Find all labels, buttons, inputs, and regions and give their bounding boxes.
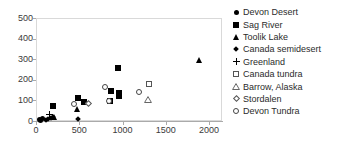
- legend-item[interactable]: Devon Desert: [231, 6, 339, 18]
- legend-item[interactable]: Greenland: [231, 56, 339, 68]
- plot-area: [36, 18, 222, 121]
- legend-item[interactable]: Devon Tundra: [231, 105, 339, 117]
- y-axis-tick: [33, 18, 36, 19]
- legend-marker-icon: [231, 44, 241, 54]
- legend-item[interactable]: Stordalen: [231, 93, 339, 105]
- y-axis-tick: [33, 100, 36, 101]
- x-axis-tick: [209, 122, 210, 125]
- legend-item-label: Barrow, Alaska: [243, 82, 303, 92]
- legend-marker-icon: [231, 20, 241, 30]
- x-axis-tick-label: 2000: [189, 126, 229, 135]
- legend-marker-icon: [231, 7, 241, 17]
- legend-item-label: Canada tundra: [243, 69, 303, 79]
- legend-item[interactable]: Canada semidesert: [231, 43, 339, 55]
- x-axis-tick: [123, 122, 124, 125]
- legend-item[interactable]: Canada tundra: [231, 68, 339, 80]
- y-axis-tick: [33, 59, 36, 60]
- x-axis-tick-label: 1500: [146, 126, 186, 135]
- y-axis-tick-label: 500: [3, 14, 33, 23]
- legend-marker-icon: [231, 32, 241, 42]
- x-axis-tick-label: 1000: [103, 126, 143, 135]
- legend-item[interactable]: Toolik Lake: [231, 31, 339, 43]
- legend-item-label: Stordalen: [243, 94, 282, 104]
- legend-marker-icon: [231, 57, 241, 67]
- y-axis-tick: [33, 80, 36, 81]
- legend-marker-icon: [231, 94, 241, 104]
- legend-marker-icon: [231, 106, 241, 116]
- legend-item-label: Devon Tundra: [243, 106, 300, 116]
- y-axis-tick: [33, 39, 36, 40]
- y-axis-tick-label: 300: [3, 55, 33, 64]
- y-axis-tick-label: 400: [3, 34, 33, 43]
- x-axis-tick-label: 0: [16, 126, 56, 135]
- chart-legend: Devon DesertSag RiverToolik LakeCanada s…: [231, 6, 339, 118]
- scatter-chart-figure: 0100200300400500 0500100015002000 Devon …: [0, 0, 340, 159]
- x-axis-tick: [36, 122, 37, 125]
- legend-item-label: Sag River: [243, 20, 283, 30]
- x-axis-line: [36, 121, 223, 122]
- legend-item-label: Greenland: [243, 57, 285, 67]
- legend-item[interactable]: Barrow, Alaska: [231, 80, 339, 92]
- x-axis-tick: [166, 122, 167, 125]
- x-axis-tick: [79, 122, 80, 125]
- legend-item[interactable]: Sag River: [231, 18, 339, 30]
- legend-marker-icon: [231, 69, 241, 79]
- y-axis-tick-label: 100: [3, 96, 33, 105]
- legend-marker-icon: [231, 82, 241, 92]
- y-axis-tick-label: 0: [3, 117, 33, 126]
- x-axis-tick-label: 500: [59, 126, 99, 135]
- legend-item-label: Toolik Lake: [243, 32, 288, 42]
- legend-item-label: Devon Desert: [243, 7, 298, 17]
- y-axis-tick-label: 200: [3, 75, 33, 84]
- legend-item-label: Canada semidesert: [243, 44, 321, 54]
